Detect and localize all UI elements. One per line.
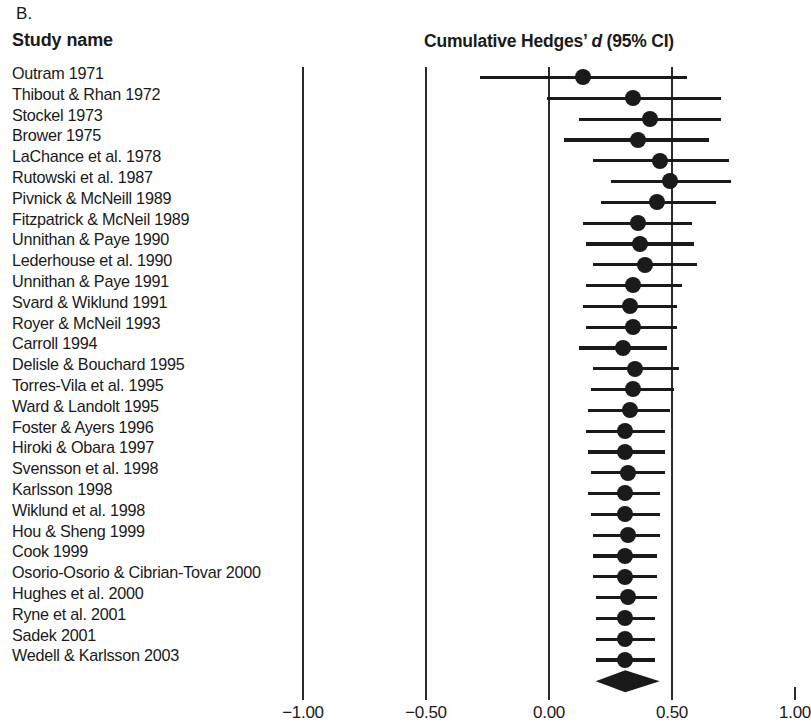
study-name-row: Pivnick & McNeill 1989 bbox=[12, 188, 312, 209]
effect-size-marker bbox=[625, 277, 641, 293]
study-name-row: Hughes et al. 2000 bbox=[12, 583, 312, 604]
study-name-row: Outram 1971 bbox=[12, 63, 312, 84]
effect-size-marker bbox=[617, 548, 633, 564]
study-name-row: Hiroki & Obara 1997 bbox=[12, 437, 312, 458]
confidence-interval-line bbox=[593, 554, 657, 557]
study-name-row: Foster & Ayers 1996 bbox=[12, 417, 312, 438]
confidence-interval-line bbox=[588, 492, 659, 495]
effect-size-marker bbox=[575, 69, 591, 85]
effect-size-marker bbox=[617, 610, 633, 626]
effect-size-marker bbox=[652, 153, 668, 169]
effect-size-marker bbox=[637, 257, 653, 273]
axis-tick bbox=[548, 687, 549, 700]
study-name-row: Rutowski et al. 1987 bbox=[12, 167, 312, 188]
effect-size-marker bbox=[642, 111, 658, 127]
confidence-interval-line bbox=[601, 201, 717, 204]
axis-tick-label: −0.50 bbox=[405, 703, 447, 723]
confidence-interval-line bbox=[547, 97, 722, 100]
confidence-interval-line bbox=[583, 305, 676, 308]
effect-size-marker bbox=[622, 402, 638, 418]
confidence-interval-line bbox=[591, 388, 675, 391]
confidence-interval-line bbox=[611, 180, 732, 183]
panel-label: B. bbox=[16, 4, 32, 24]
gridline-0 bbox=[548, 67, 549, 687]
confidence-interval-line bbox=[586, 430, 665, 433]
study-name-row: Thibout & Rhan 1972 bbox=[12, 84, 312, 105]
confidence-interval-line bbox=[596, 617, 655, 620]
confidence-interval-line bbox=[593, 534, 659, 537]
study-name-row: Wedell & Karlsson 2003 bbox=[12, 645, 312, 666]
confidence-interval-line bbox=[596, 596, 658, 599]
effect-size-marker bbox=[617, 652, 633, 668]
axis-tick-label: −1.00 bbox=[282, 703, 324, 723]
axis-tick bbox=[671, 687, 672, 700]
effect-size-marker bbox=[615, 340, 631, 356]
study-name-list: Outram 1971Thibout & Rhan 1972Stockel 19… bbox=[12, 63, 312, 666]
effect-size-marker bbox=[625, 319, 641, 335]
effect-size-marker bbox=[617, 569, 633, 585]
confidence-interval-line bbox=[591, 513, 660, 516]
study-name-row: Ryne et al. 2001 bbox=[12, 604, 312, 625]
study-name-row: Wiklund et al. 1998 bbox=[12, 500, 312, 521]
study-name-row: Fitzpatrick & McNeil 1989 bbox=[12, 209, 312, 230]
study-name-row: Lederhouse et al. 1990 bbox=[12, 250, 312, 271]
study-name-row: Svard & Wiklund 1991 bbox=[12, 292, 312, 313]
study-name-row: LaChance et al. 1978 bbox=[12, 146, 312, 167]
confidence-interval-line bbox=[593, 263, 696, 266]
effect-size-marker bbox=[625, 381, 641, 397]
confidence-interval-line bbox=[586, 242, 694, 245]
effect-size-marker bbox=[617, 444, 633, 460]
axis-tick-label: 0.50 bbox=[656, 703, 688, 723]
effect-size-marker bbox=[620, 527, 636, 543]
study-name-row: Ward & Landolt 1995 bbox=[12, 396, 312, 417]
axis-tick bbox=[794, 687, 795, 700]
confidence-interval-line bbox=[588, 450, 664, 453]
gridline--0-5 bbox=[425, 67, 426, 687]
effect-size-marker bbox=[617, 506, 633, 522]
confidence-interval-line bbox=[579, 346, 668, 349]
plot-title-suffix: (95% CI) bbox=[602, 31, 674, 51]
effect-size-marker bbox=[630, 132, 646, 148]
confidence-interval-line bbox=[593, 575, 657, 578]
effect-size-marker bbox=[620, 465, 636, 481]
confidence-interval-line bbox=[591, 471, 665, 474]
plot-title-prefix: Cumulative Hedges’ bbox=[424, 31, 591, 51]
study-name-row: Unnithan & Paye 1990 bbox=[12, 229, 312, 250]
effect-size-marker bbox=[622, 298, 638, 314]
study-name-row: Torres-Vila et al. 1995 bbox=[12, 375, 312, 396]
study-name-row: Cook 1999 bbox=[12, 541, 312, 562]
study-name-row: Royer & McNeil 1993 bbox=[12, 313, 312, 334]
plot-title: Cumulative Hedges’ d (95% CI) bbox=[424, 31, 674, 52]
study-name-row: Delisle & Bouchard 1995 bbox=[12, 354, 312, 375]
plot-title-statistic: d bbox=[591, 31, 602, 51]
effect-size-marker bbox=[617, 631, 633, 647]
effect-size-marker bbox=[649, 194, 665, 210]
axis-tick bbox=[425, 687, 426, 700]
effect-size-marker bbox=[625, 90, 641, 106]
confidence-interval-line bbox=[596, 658, 655, 661]
study-name-row: Brower 1975 bbox=[12, 125, 312, 146]
study-name-column-header: Study name bbox=[12, 30, 113, 51]
confidence-interval-line bbox=[593, 367, 679, 370]
effect-size-marker bbox=[630, 215, 646, 231]
effect-size-marker bbox=[617, 423, 633, 439]
effect-size-marker bbox=[617, 485, 633, 501]
confidence-interval-line bbox=[480, 76, 687, 79]
confidence-interval-line bbox=[593, 159, 728, 162]
study-name-row: Karlsson 1998 bbox=[12, 479, 312, 500]
study-name-row: Svensson et al. 1998 bbox=[12, 458, 312, 479]
study-name-row: Sadek 2001 bbox=[12, 625, 312, 646]
axis-tick bbox=[302, 687, 303, 700]
confidence-interval-line bbox=[583, 222, 691, 225]
study-name-row: Unnithan & Paye 1991 bbox=[12, 271, 312, 292]
effect-size-marker bbox=[620, 589, 636, 605]
effect-size-marker bbox=[662, 173, 678, 189]
confidence-interval-line bbox=[596, 638, 655, 641]
confidence-interval-line bbox=[586, 326, 677, 329]
effect-size-marker bbox=[627, 361, 643, 377]
study-name-row: Carroll 1994 bbox=[12, 333, 312, 354]
confidence-interval-line bbox=[579, 118, 722, 121]
confidence-interval-line bbox=[588, 409, 669, 412]
confidence-interval-line bbox=[586, 284, 682, 287]
axis-tick-label: 0.00 bbox=[533, 703, 565, 723]
